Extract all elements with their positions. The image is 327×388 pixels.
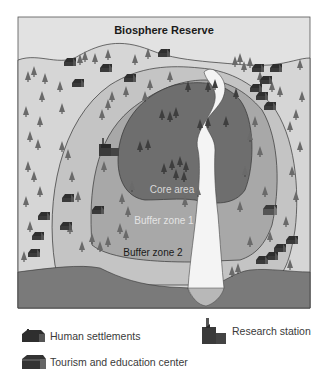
core-area-label: Core area	[150, 184, 195, 195]
legend-research-station: Research station	[201, 317, 311, 345]
legend-label: Human settlements	[50, 330, 140, 342]
legend-label: Research station	[232, 325, 311, 337]
diagram-title: Biosphere Reserve	[114, 24, 214, 36]
legend-tourism-center: Tourism and education center	[21, 354, 188, 370]
tourism-center-icon	[21, 354, 47, 370]
house-icon	[21, 329, 47, 343]
legend-human-settlements: Human settlements	[21, 329, 140, 343]
buffer-zone-1-label: Buffer zone 1	[134, 215, 194, 226]
research-station-icon	[201, 317, 229, 345]
buffer-zone-2-label: Buffer zone 2	[123, 247, 183, 258]
legend-label: Tourism and education center	[50, 356, 188, 368]
tourism-centers	[263, 205, 277, 215]
